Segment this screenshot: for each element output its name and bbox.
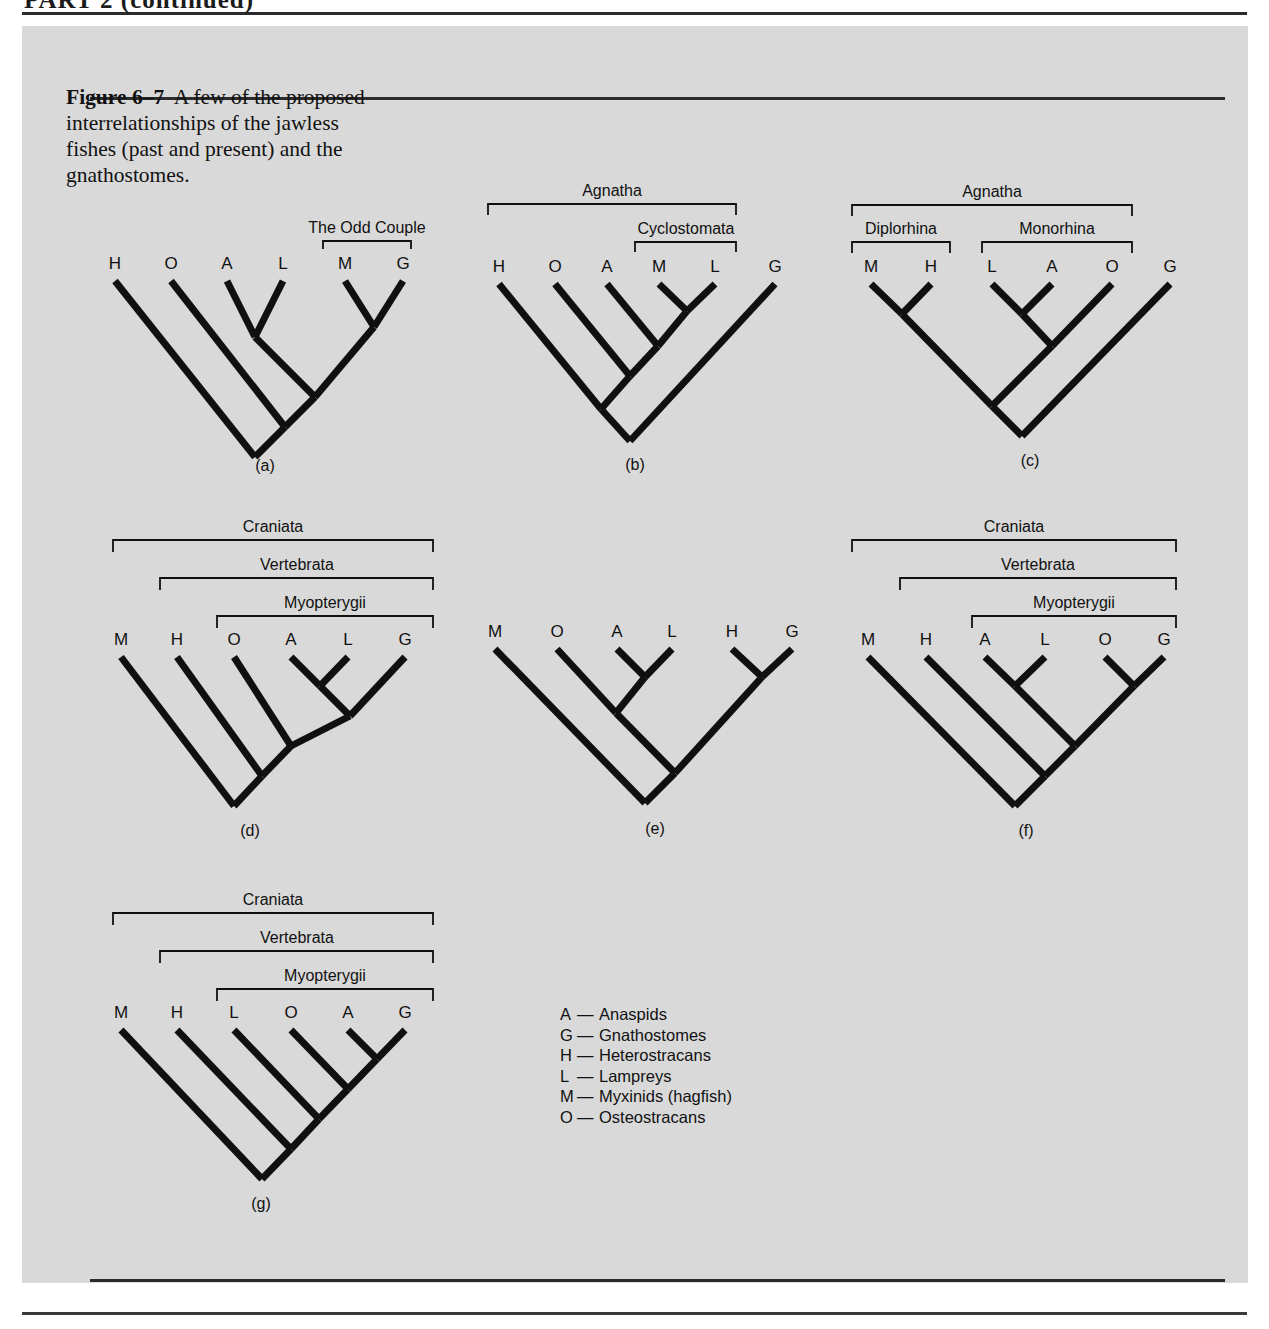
bracket-label-craniata-f: Craniata (984, 518, 1045, 535)
tip-label-g-5: G (398, 1003, 411, 1022)
branch-lines-d (121, 657, 405, 806)
tip-label-g-2: L (229, 1003, 238, 1022)
figure-page: PART 2 (continued) Figure 6–7 A few of t… (0, 0, 1269, 1329)
bracket-odd-couple (323, 241, 411, 249)
tip-label-g-4: A (342, 1003, 354, 1022)
cladogram-b: Agnatha Cyclostomata H O A M L G (470, 180, 830, 480)
bracket-myopterygii-g (217, 989, 433, 1001)
cladogram-f: Craniata Vertebrata Myopterygii M H A L … (840, 510, 1210, 860)
bracket-label-myopterygii-d: Myopterygii (284, 594, 366, 611)
tip-label-b-5: G (768, 257, 781, 276)
legend-dash: — (577, 1107, 599, 1128)
tip-label-a-2: A (221, 254, 233, 273)
legend-name: Osteostracans (599, 1108, 705, 1126)
legend-row: G—Gnathostomes (560, 1025, 732, 1046)
tip-label-b-3: M (652, 257, 666, 276)
panel-letter-e: (e) (645, 820, 665, 837)
panel-letter-f: (f) (1018, 822, 1033, 839)
tip-label-e-2: A (611, 622, 623, 641)
bracket-label-vertebrata-f: Vertebrata (1001, 556, 1075, 573)
legend-dash: — (577, 1066, 599, 1087)
tip-label-c-3: A (1046, 257, 1058, 276)
bracket-vertebrata-d (160, 578, 433, 590)
bracket-label-vertebrata-d: Vertebrata (260, 556, 334, 573)
branch-lines-e (495, 649, 792, 803)
cladogram-d: Craniata Vertebrata Myopterygii M H O A … (95, 510, 465, 860)
tip-label-b-4: L (710, 257, 719, 276)
bracket-diplorhina (852, 242, 950, 253)
tip-label-b-1: O (548, 257, 561, 276)
bottom-rule (22, 1312, 1247, 1315)
tip-label-f-0: M (861, 630, 875, 649)
panel-letter-a: (a) (255, 457, 275, 474)
legend-key: H (560, 1045, 577, 1066)
bracket-agnatha-b (488, 204, 736, 215)
tip-label-g-1: H (171, 1003, 183, 1022)
panel-rule-bottom (90, 1279, 1225, 1282)
tip-label-a-5: G (396, 254, 409, 273)
panel-letter-d: (d) (240, 822, 260, 839)
bracket-label-vertebrata-g: Vertebrata (260, 929, 334, 946)
cladogram-c: Agnatha Diplorhina Monorhina M H L A O G (840, 180, 1180, 480)
legend-key: M (560, 1086, 577, 1107)
bracket-label-craniata-g: Craniata (243, 891, 304, 908)
branch-lines-f (868, 657, 1164, 806)
tip-label-g-0: M (114, 1003, 128, 1022)
tip-label-d-1: H (171, 630, 183, 649)
legend-name: Heterostracans (599, 1046, 711, 1064)
caption-spacer (164, 85, 174, 109)
tip-label-e-0: M (488, 622, 502, 641)
legend-name: Gnathostomes (599, 1026, 706, 1044)
tip-label-e-3: L (667, 622, 676, 641)
tip-label-d-4: L (343, 630, 352, 649)
tip-label-c-2: L (987, 257, 996, 276)
tip-label-e-5: G (785, 622, 798, 641)
bracket-craniata-d (113, 540, 433, 552)
bracket-vertebrata-g (160, 951, 433, 963)
bracket-vertebrata-f (900, 578, 1176, 590)
legend-key: A (560, 1004, 577, 1025)
legend-dash: — (577, 1045, 599, 1066)
bracket-label-monorhina: Monorhina (1019, 220, 1095, 237)
bracket-label-craniata-d: Craniata (243, 518, 304, 535)
bracket-label-myopterygii-f: Myopterygii (1033, 594, 1115, 611)
tip-label-a-4: M (338, 254, 352, 273)
branch-lines-g (121, 1030, 405, 1179)
tip-label-f-3: L (1040, 630, 1049, 649)
legend-name: Lampreys (599, 1067, 671, 1085)
tip-label-d-0: M (114, 630, 128, 649)
legend-name: Anaspids (599, 1005, 667, 1023)
bracket-label-myopterygii-g: Myopterygii (284, 967, 366, 984)
bracket-agnatha-c (852, 205, 1132, 216)
figure-number: Figure 6–7 (66, 85, 164, 109)
bracket-label-agnatha-c: Agnatha (962, 183, 1022, 200)
tip-label-f-2: A (979, 630, 991, 649)
branch-lines-a (115, 281, 403, 457)
bracket-label-cyclostomata: Cyclostomata (638, 220, 735, 237)
tip-label-g-3: O (284, 1003, 297, 1022)
legend-name: Myxinids (hagfish) (599, 1087, 732, 1105)
panel-letter-b: (b) (625, 456, 645, 473)
tip-label-b-2: A (601, 257, 613, 276)
tip-label-a-1: O (164, 254, 177, 273)
tip-label-d-3: A (285, 630, 297, 649)
legend-dash: — (577, 1086, 599, 1107)
legend-row: H—Heterostracans (560, 1045, 732, 1066)
tip-label-c-4: O (1105, 257, 1118, 276)
legend-key: L (560, 1066, 577, 1087)
tip-label-e-4: H (726, 622, 738, 641)
bracket-label-odd-couple: The Odd Couple (308, 219, 426, 236)
bracket-monorhina (982, 242, 1132, 253)
legend-key: G (560, 1025, 577, 1046)
tip-label-a-0: H (109, 254, 121, 273)
bracket-myopterygii-d (217, 616, 433, 628)
bracket-myopterygii-f (972, 616, 1176, 628)
legend-dash: — (577, 1025, 599, 1046)
figure-caption: Figure 6–7 A few of the proposed interre… (66, 84, 366, 188)
tip-label-c-1: H (925, 257, 937, 276)
cladogram-e: M O A L H G (e (470, 615, 810, 865)
taxon-legend: A—Anaspids G—Gnathostomes H—Heterostraca… (560, 1004, 732, 1127)
cladogram-a: The Odd Couple H O A L M G (80, 215, 480, 475)
tip-label-f-5: G (1157, 630, 1170, 649)
bracket-label-agnatha-b: Agnatha (582, 182, 642, 199)
